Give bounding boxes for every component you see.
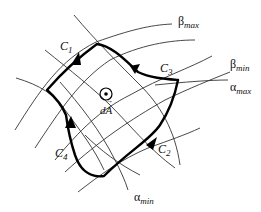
vector-arrow-icon: → (105, 97, 113, 105)
label-alpha-min: αmin (134, 191, 154, 206)
label-area-element: dA→ (100, 105, 112, 116)
label-c1: C1 (60, 40, 73, 55)
grid-line-alpha-max (155, 80, 228, 85)
label-beta-max: βmax (178, 15, 199, 30)
label-c2: C2 (158, 143, 171, 158)
label-c4: C4 (55, 147, 68, 162)
label-alpha-max: αmax (230, 81, 251, 96)
label-c3: C3 (160, 62, 173, 77)
grid-line (78, 128, 200, 192)
label-beta-min: βmin (230, 58, 250, 73)
diagram-canvas (0, 0, 261, 212)
